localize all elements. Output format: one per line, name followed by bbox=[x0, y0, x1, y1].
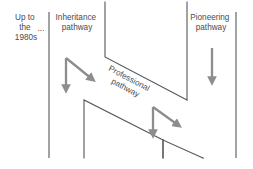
era-label: Up to the 1980s bbox=[15, 13, 37, 42]
pioneering-label: Pioneering pathway bbox=[190, 13, 231, 32]
professional-diagonal-arrow bbox=[153, 107, 178, 125]
era-ellipsis-label: ... bbox=[38, 24, 45, 33]
inheritance-label: Inheritance pathway bbox=[56, 13, 99, 32]
professional-label: Professional pathway bbox=[102, 64, 153, 103]
step-two-path bbox=[84, 100, 163, 158]
diagram-labels: Up to the 1980s ... Inheritance pathway … bbox=[15, 13, 232, 103]
step-three-path bbox=[163, 140, 203, 158]
diagram-canvas: Up to the 1980s ... Inheritance pathway … bbox=[0, 0, 253, 169]
step-paths bbox=[84, 2, 203, 158]
pathways-diagram: Up to the 1980s ... Inheritance pathway … bbox=[0, 0, 253, 169]
inheritance-diagonal-arrow bbox=[66, 58, 92, 79]
